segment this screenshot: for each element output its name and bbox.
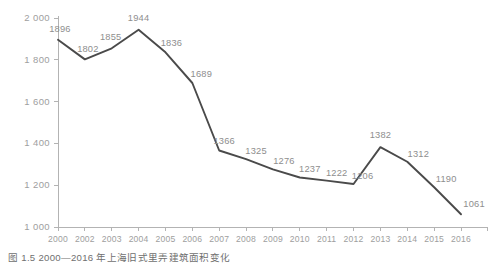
x-tick-label: 2011	[317, 234, 336, 244]
data-point-label: 1206	[352, 171, 373, 181]
y-tick-label: 1 200	[24, 179, 50, 190]
x-tick-label: 2010	[290, 234, 310, 244]
line-chart: 1 0001 2001 4001 6001 8002 000 200020022…	[0, 0, 497, 250]
x-tick-label: 2016	[451, 234, 471, 244]
x-tick-label: 2004	[129, 234, 149, 244]
data-point-label: 1896	[49, 24, 70, 34]
x-tick-label: 2007	[209, 234, 229, 244]
x-tick-label: 2008	[236, 234, 256, 244]
x-tick-label: 2015	[424, 234, 444, 244]
data-point-label: 1190	[436, 174, 457, 184]
x-tick-label: 2002	[75, 234, 95, 244]
x-tick-label: 2013	[370, 234, 390, 244]
data-point-label: 1689	[191, 69, 212, 79]
y-tick-label: 2 000	[24, 12, 50, 23]
y-tick-label: 1 400	[24, 137, 50, 148]
y-tick-label: 1 000	[24, 221, 50, 232]
x-tick-label: 2003	[102, 234, 122, 244]
data-point-label: 1944	[128, 13, 149, 23]
x-tick-label: 2009	[263, 234, 283, 244]
x-tick-label: 2005	[156, 234, 176, 244]
x-tick-label: 2006	[182, 234, 202, 244]
data-point-label: 1222	[326, 168, 347, 178]
data-series-line	[58, 30, 461, 215]
figure-caption: 图 1.5 2000—2016 年上海旧式里弄建筑面积变化	[8, 250, 230, 264]
y-axis-labels: 1 0001 2001 4001 6001 8002 000	[24, 12, 50, 232]
x-tick-label: 2012	[344, 234, 364, 244]
y-tick-label: 1 800	[24, 54, 50, 65]
data-value-labels: 1896180218551944183616891366132512761237…	[49, 13, 484, 210]
x-axis-labels: 2000200220032004200520062007200820092010…	[48, 234, 471, 244]
data-point-label: 1276	[273, 156, 294, 166]
figure-container: 1 0001 2001 4001 6001 8002 000 200020022…	[0, 0, 497, 270]
data-point-label: 1802	[77, 44, 98, 54]
dropline-group	[58, 31, 461, 223]
data-point-label: 1237	[299, 164, 320, 174]
x-tick-label: 2000	[48, 234, 68, 244]
x-axis-ticks	[58, 227, 488, 231]
data-point-label: 1312	[408, 149, 429, 159]
y-tick-label: 1 600	[24, 96, 50, 107]
data-point-label: 1061	[463, 199, 484, 209]
data-point-label: 1366	[213, 136, 234, 146]
y-axis-ticks	[54, 18, 58, 227]
data-point-label: 1325	[245, 146, 266, 156]
data-point-label: 1836	[161, 38, 182, 48]
data-point-label: 1382	[370, 130, 391, 140]
data-point-label: 1855	[100, 32, 121, 42]
x-tick-label: 2014	[397, 234, 417, 244]
